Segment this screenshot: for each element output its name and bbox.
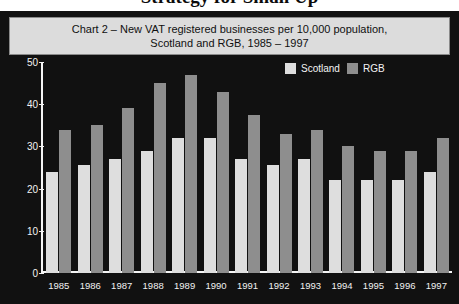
bar-rgb-1993 (311, 130, 323, 273)
x-axis-tick-label: 1992 (263, 275, 294, 295)
x-axis-tick-label: 1997 (421, 275, 452, 295)
cropped-page-heading: Strategy for Small Up (0, 0, 459, 11)
x-axis-tick-label: 1990 (200, 275, 231, 295)
chart-title-box: Chart 2 – New VAT registered businesses … (9, 17, 450, 55)
y-axis-tick-mark (39, 273, 44, 274)
bar-scotland-1996 (392, 180, 404, 273)
y-axis-tick-label: 30 (14, 141, 38, 152)
bar-scotland-1993 (298, 159, 310, 273)
bar-rgb-1992 (280, 134, 292, 273)
bar-groups (43, 55, 452, 273)
bar-rgb-1986 (91, 125, 103, 273)
bar-rgb-1990 (217, 92, 229, 273)
bar-group (137, 55, 168, 273)
y-axis-tick-label: 40 (14, 99, 38, 110)
chart-title-line-1: Chart 2 – New VAT registered businesses … (72, 22, 388, 36)
bar-group (263, 55, 294, 273)
bar-group (232, 55, 263, 273)
bar-group (421, 55, 452, 273)
bar-group (200, 55, 231, 273)
bar-rgb-1996 (405, 151, 417, 273)
x-axis-tick-label: 1986 (74, 275, 105, 295)
bar-scotland-1985 (46, 172, 58, 273)
x-axis-labels: 1985198619871988198919901991199219931994… (43, 275, 452, 295)
bar-rgb-1995 (374, 151, 386, 273)
bar-group (106, 55, 137, 273)
bar-scotland-1990 (204, 138, 216, 273)
bar-scotland-1992 (267, 165, 279, 273)
bar-rgb-1985 (59, 130, 71, 273)
bar-group (295, 55, 326, 273)
bar-scotland-1994 (329, 180, 341, 273)
y-axis-tick-label: 10 (14, 225, 38, 236)
x-axis-tick-label: 1985 (43, 275, 74, 295)
bar-group (74, 55, 105, 273)
y-axis-labels: 01020304050 (14, 55, 38, 271)
x-axis-tick-label: 1987 (106, 275, 137, 295)
y-axis-tick-label: 50 (14, 57, 38, 68)
bar-rgb-1988 (154, 83, 166, 273)
bar-rgb-1997 (437, 138, 449, 273)
chart-title-line-2: Scotland and RGB, 1985 – 1997 (150, 36, 308, 50)
bar-group (169, 55, 200, 273)
bar-rgb-1987 (122, 108, 134, 273)
x-axis-tick-label: 1995 (358, 275, 389, 295)
bar-scotland-1991 (235, 159, 247, 273)
bar-group (389, 55, 420, 273)
bar-rgb-1994 (342, 146, 354, 273)
bar-rgb-1991 (248, 115, 260, 273)
x-axis-tick-label: 1991 (232, 275, 263, 295)
bar-group (358, 55, 389, 273)
x-axis-tick-label: 1988 (137, 275, 168, 295)
bar-scotland-1988 (141, 151, 153, 273)
plot-area: 01020304050 1985198619871988198919901991… (0, 55, 459, 304)
bar-scotland-1989 (172, 138, 184, 273)
bar-rgb-1989 (185, 75, 197, 273)
x-axis-tick-label: 1989 (169, 275, 200, 295)
chart-panel: Chart 2 – New VAT registered businesses … (0, 11, 459, 304)
x-axis-tick-label: 1993 (295, 275, 326, 295)
y-axis-tick-label: 20 (14, 183, 38, 194)
chart-page: Strategy for Small Up Chart 2 – New VAT … (0, 0, 459, 304)
bar-scotland-1995 (361, 180, 373, 273)
bar-scotland-1986 (78, 165, 90, 273)
bar-group (326, 55, 357, 273)
x-axis-tick-label: 1994 (326, 275, 357, 295)
bar-group (43, 55, 74, 273)
bar-scotland-1997 (424, 172, 436, 273)
cropped-heading-text: Strategy for Small Up (0, 0, 459, 8)
bar-scotland-1987 (109, 159, 121, 273)
x-axis-tick-label: 1996 (389, 275, 420, 295)
y-axis-tick-label: 0 (14, 268, 38, 279)
